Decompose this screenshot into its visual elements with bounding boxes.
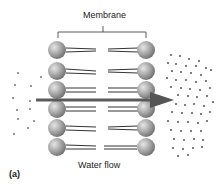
right-water-molecules [166, 54, 214, 157]
membrane-bracket [58, 26, 146, 38]
lipid-bilayer-diagram [0, 0, 224, 191]
left-water-molecules [12, 72, 42, 135]
